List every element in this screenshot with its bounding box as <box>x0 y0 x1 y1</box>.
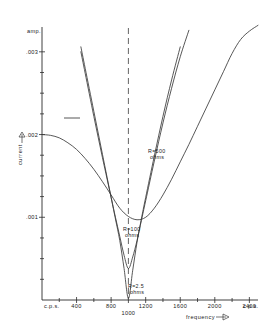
y-tick-label: .003 <box>26 49 38 55</box>
x-axis-arrow-icon <box>216 314 229 320</box>
resonance-curve-figure: .001.002.003 40080010001200160020002400 … <box>0 0 269 333</box>
chart-canvas: .001.002.003 40080010001200160020002400 … <box>0 0 269 333</box>
annotation-r25-line2: ohms <box>130 289 144 295</box>
x-unit-label-left: c.p.s. <box>44 303 60 309</box>
annotation-r500: R=500 ohms <box>148 148 166 160</box>
x-axis-title: frequency <box>186 314 215 320</box>
x-tick-label: 800 <box>106 303 116 309</box>
x-tick-label: 1600 <box>173 303 187 309</box>
annotation-r100: R=100 ohms <box>123 226 141 238</box>
y-tick-label: .002 <box>26 132 38 138</box>
annotation-r100-line2: ohms <box>125 232 139 238</box>
x-axis-tick-labels: 40080010001200160020002400 <box>71 303 256 316</box>
x-tick-label: 1200 <box>139 303 153 309</box>
y-axis-title: current <box>17 144 23 165</box>
y-unit-label: amp. <box>27 28 41 34</box>
curve-r500-ohms <box>42 25 258 219</box>
x-unit-label-right: c.p.s. <box>243 303 259 309</box>
annotation-r500-line2: ohms <box>150 154 164 160</box>
y-axis-tick-labels: .001.002.003 <box>26 49 38 220</box>
x-tick-label: 400 <box>71 303 81 309</box>
y-axis-arrow-icon <box>19 132 25 143</box>
y-tick-label: .001 <box>26 214 38 220</box>
annotation-r25: R=2.5 ohms <box>128 283 144 295</box>
x-tick-label: 2000 <box>208 303 222 309</box>
x-tick-label: 1000 <box>121 310 135 316</box>
